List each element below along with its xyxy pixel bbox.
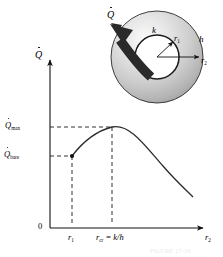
heat-rate-curve <box>72 127 193 197</box>
y-axis-title: Q <box>35 50 42 60</box>
x-tick-rcr: rcr = k/h <box>96 233 124 242</box>
y-tick-qbare: Qbare <box>4 150 19 159</box>
figure-credit: FIGURE 17-24 <box>150 248 191 254</box>
outer-radius-label: r2 <box>201 56 207 65</box>
x-tick-r1: r1 <box>68 233 74 242</box>
guide-lines <box>50 127 112 225</box>
conductivity-label: k <box>152 26 156 35</box>
inner-radius-label: r1 <box>174 34 180 43</box>
heat-rate-label: Q <box>107 10 114 20</box>
y-tick-qmax: Qmax <box>5 121 20 130</box>
qbare-marker-point <box>70 154 74 158</box>
figure-canvas <box>0 0 223 257</box>
qmax-subscript: max <box>11 125 20 131</box>
origin-label: 0 <box>38 222 42 231</box>
x-tick-rcr-expression: = k/h <box>103 232 123 242</box>
figure-critical-radius: Q k h r1 r2 Q Qmax Qbare 0 r1 rcr = k/h … <box>0 0 223 257</box>
outer-radius-subscript: 2 <box>204 60 207 66</box>
x-axis-subscript: 2 <box>208 237 211 243</box>
x-tick-r1-subscript: 1 <box>71 237 74 243</box>
heat-rate-symbol: Q <box>107 10 114 20</box>
x-tick-rcr-subscript: cr <box>99 237 103 243</box>
y-axis-symbol: Q <box>35 50 42 60</box>
convection-coefficient-label: h <box>199 35 204 44</box>
qbare-subscript: bare <box>10 154 19 160</box>
x-axis-title: r2 <box>205 233 211 242</box>
inner-radius-subscript: 1 <box>177 38 180 44</box>
